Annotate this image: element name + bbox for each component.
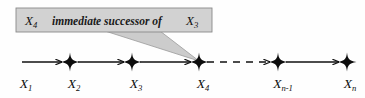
callout-phrase: immediate successor of <box>52 15 163 28</box>
node-marker-x3 <box>123 53 142 72</box>
node-label-x3: X3 <box>129 76 143 93</box>
node-label-x4: X4 <box>196 76 210 93</box>
diagram-canvas: X4 immediate successor of X3 X1 X2 X3 X4… <box>0 0 365 98</box>
node-marker-xn-1 <box>269 53 288 72</box>
node-label-x2: X2 <box>67 76 81 93</box>
node-marker-xn <box>338 53 357 72</box>
callout-pointer <box>105 31 199 61</box>
node-marker-x2 <box>61 53 80 72</box>
node-label-x1: X1 <box>19 76 33 93</box>
node-label-xn-1: Xn-1 <box>272 76 293 93</box>
node-marker-x4 <box>190 53 209 72</box>
sequence-chain-figure: X4 immediate successor of X3 X1 X2 X3 X4… <box>0 0 365 98</box>
node-label-xn: Xn <box>343 76 357 93</box>
